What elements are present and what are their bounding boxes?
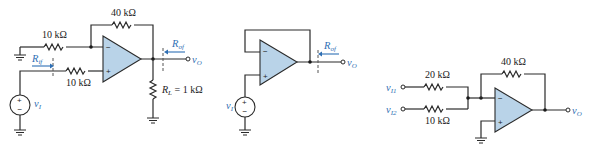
circuit-c: vI1 20 kΩ vI2 10 kΩ 40 kΩ − + [386, 56, 582, 143]
label-rif: Rif [31, 53, 43, 66]
label-vi1: vI1 [386, 82, 397, 95]
circuit-b: − + vO Rof + − vI [226, 30, 357, 135]
resistor-10k-noninverting [66, 68, 85, 74]
label-vi2: vI2 [386, 104, 397, 117]
label-vo: vO [347, 57, 357, 70]
label-10k: 10 kΩ [425, 115, 450, 126]
output-terminal [186, 57, 190, 61]
resistor-20k [424, 84, 443, 90]
circuit-a: 10 kΩ 40 kΩ − + 10 kΩ Rif vO Rof [10, 7, 203, 135]
resistor-40k-feedback [112, 22, 131, 28]
output-node-dot [543, 108, 547, 112]
resistor-load [150, 80, 156, 99]
input1-terminal [401, 85, 405, 89]
source-minus: − [18, 105, 23, 114]
ground-icon [14, 130, 26, 135]
junction-dot [466, 96, 470, 100]
resistor-40k-feedback [502, 71, 521, 77]
output-node-dot [308, 60, 312, 64]
label-vo: vO [192, 54, 202, 67]
label-10k-top: 10 kΩ [42, 29, 67, 40]
ground-icon [239, 130, 251, 135]
output-terminal [341, 60, 345, 64]
label-rl: RL = 1 kΩ [161, 84, 203, 97]
junction-dot [89, 45, 93, 49]
label-20k: 20 kΩ [425, 69, 450, 80]
resistor-10k-inverting [44, 44, 63, 50]
label-rof: Rof [323, 40, 337, 53]
opamp-plus-label: + [106, 67, 111, 76]
input2-terminal [401, 107, 405, 111]
ground-icon [14, 47, 26, 60]
label-vo: vO [572, 105, 582, 118]
opamp-minus-label: − [263, 47, 268, 56]
opamp-minus-label: − [498, 94, 503, 103]
opamp-minus-label: − [106, 43, 111, 52]
label-10k-bottom: 10 kΩ [66, 77, 91, 88]
ground-icon [147, 118, 159, 123]
resistor-10k [424, 106, 443, 112]
label-rof: Rof [171, 38, 185, 51]
circuit-figure: 10 kΩ 40 kΩ − + 10 kΩ Rif vO Rof [0, 0, 592, 158]
output-terminal [566, 108, 570, 112]
opamp-plus-label: + [263, 72, 268, 81]
source-minus: − [243, 107, 248, 116]
label-40k: 40 kΩ [111, 7, 136, 18]
source-plus: + [242, 98, 247, 107]
source-plus: + [17, 96, 22, 105]
label-vi: vI [34, 98, 42, 111]
opamp-plus-label: + [498, 118, 503, 127]
ground-icon [475, 138, 487, 143]
label-40k: 40 kΩ [501, 56, 526, 67]
label-vi: vI [226, 100, 234, 113]
